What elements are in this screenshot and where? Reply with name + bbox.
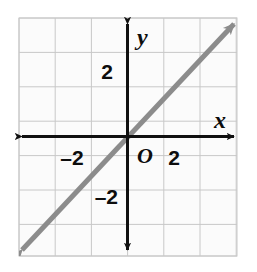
coordinate-plane-svg: y x O –2 2 2 –2 xyxy=(0,0,257,272)
y-tick-label-neg2: –2 xyxy=(95,185,118,208)
x-tick-label-2: 2 xyxy=(168,146,180,169)
x-tick-label-neg2: –2 xyxy=(60,146,83,169)
x-axis-label: x xyxy=(213,107,226,133)
origin-label: O xyxy=(137,143,153,168)
y-axis-label: y xyxy=(134,24,148,50)
coordinate-plane-figure: y x O –2 2 2 –2 xyxy=(0,0,257,272)
y-tick-label-2: 2 xyxy=(101,60,113,83)
